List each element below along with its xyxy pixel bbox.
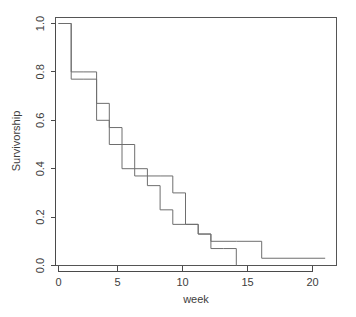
x-axis-title: week bbox=[182, 293, 209, 305]
y-axis-ticks bbox=[51, 24, 56, 266]
x-axis-ticks bbox=[59, 266, 313, 272]
y-tick-label-3: 0.6 bbox=[34, 113, 46, 128]
x-tick-label-0: 0 bbox=[55, 276, 61, 288]
y-axis-title: Survivorship bbox=[10, 111, 22, 172]
survivorship-chart: 0.0 0.2 0.4 0.6 0.8 1.0 Survivorship 0 5… bbox=[0, 0, 356, 317]
x-tick-label-1: 5 bbox=[114, 276, 120, 288]
y-tick-label-0: 0.0 bbox=[34, 258, 46, 273]
step-curve-group-a bbox=[59, 24, 326, 259]
y-tick-label-4: 0.8 bbox=[34, 64, 46, 79]
figure-container: 0.0 0.2 0.4 0.6 0.8 1.0 Survivorship 0 5… bbox=[0, 0, 356, 317]
y-tick-label-2: 0.4 bbox=[34, 161, 46, 176]
plot-box bbox=[56, 18, 337, 266]
survival-curves bbox=[59, 24, 326, 259]
y-tick-label-5: 1.0 bbox=[34, 16, 46, 31]
x-tick-label-3: 15 bbox=[241, 276, 253, 288]
step-curve-group-b bbox=[59, 24, 237, 249]
x-tick-label-2: 10 bbox=[176, 276, 188, 288]
x-tick-label-4: 20 bbox=[306, 276, 318, 288]
x-axis-tick-labels: 0 5 10 15 20 bbox=[55, 276, 318, 288]
y-tick-label-1: 0.2 bbox=[34, 209, 46, 224]
y-axis-tick-labels: 0.0 0.2 0.4 0.6 0.8 1.0 bbox=[34, 16, 46, 273]
